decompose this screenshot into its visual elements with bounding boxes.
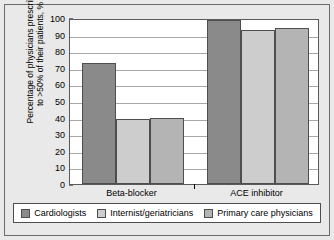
x-tick-label-ace-inhibitor: ACE inhibitor (230, 187, 283, 199)
legend-label: Cardiologists (34, 208, 86, 218)
y-tick-label-0: 0 (60, 181, 65, 190)
bar-beta-blocker-cardiologists[interactable] (82, 63, 116, 184)
x-group-divider (194, 184, 195, 189)
bar-ace-inhibitor-cardiologists[interactable] (207, 20, 241, 184)
plot-inner (70, 20, 318, 184)
y-tick-label-70: 70 (55, 64, 65, 73)
y-tick-label-60: 60 (55, 81, 65, 90)
chart-area: Percentage of physicians prescribing to … (5, 5, 329, 195)
y-tick-label-10: 10 (55, 164, 65, 173)
legend-swatch-icon (21, 209, 30, 218)
legend-swatch-icon (97, 209, 106, 218)
plot-area (69, 19, 319, 185)
bar-ace-inhibitor-primary-care-physicians[interactable] (275, 28, 309, 184)
y-tick-label-90: 90 (55, 31, 65, 40)
x-tick-label-beta-blocker: Beta-blocker (106, 187, 157, 199)
y-tick-label-50: 50 (55, 98, 65, 107)
figure: Percentage of physicians prescribing to … (0, 0, 334, 240)
bar-beta-blocker-primary-care-physicians[interactable] (150, 118, 184, 184)
legend-label: Internist/geriatricians (110, 208, 193, 218)
legend-item-cardiologists[interactable]: Cardiologists (21, 208, 86, 218)
y-tick-label-100: 100 (50, 15, 65, 24)
y-tick-label-20: 20 (55, 147, 65, 156)
y-tick-label-80: 80 (55, 48, 65, 57)
legend-item-primary-care-physicians[interactable]: Primary care physicians (204, 208, 313, 218)
bar-ace-inhibitor-internist-geriatricians[interactable] (241, 30, 275, 184)
y-tick-label-30: 30 (55, 131, 65, 140)
legend-label: Primary care physicians (217, 208, 313, 218)
y-axis-tick-labels: 0102030405060708090100 (43, 19, 69, 185)
legend-item-internist-geriatricians[interactable]: Internist/geriatricians (97, 208, 193, 218)
y-tick-label-40: 40 (55, 114, 65, 123)
legend-swatch-icon (204, 209, 213, 218)
x-axis-tick-labels: Beta-blockerACE inhibitor (69, 187, 319, 201)
bar-beta-blocker-internist-geriatricians[interactable] (116, 119, 150, 184)
legend: CardiologistsInternist/geriatriciansPrim… (13, 203, 321, 223)
